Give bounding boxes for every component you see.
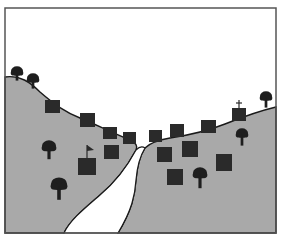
left-hill-house-2-icon	[80, 113, 95, 127]
left-hill-house-4-icon	[123, 132, 136, 144]
field-house-2-icon	[157, 147, 172, 162]
river-house-icon	[149, 130, 162, 142]
left-hill-house-3-icon	[103, 127, 117, 139]
field-house-4-icon	[216, 154, 232, 171]
right-hill-house-1-icon	[170, 124, 184, 137]
field-house-5-icon	[167, 169, 183, 185]
valley-illustration	[0, 0, 285, 238]
field-house-3-icon	[182, 141, 198, 157]
field-house-1-icon	[104, 145, 119, 159]
right-hill-house-2-icon	[201, 120, 216, 133]
left-hill-house-1-icon	[45, 100, 60, 113]
